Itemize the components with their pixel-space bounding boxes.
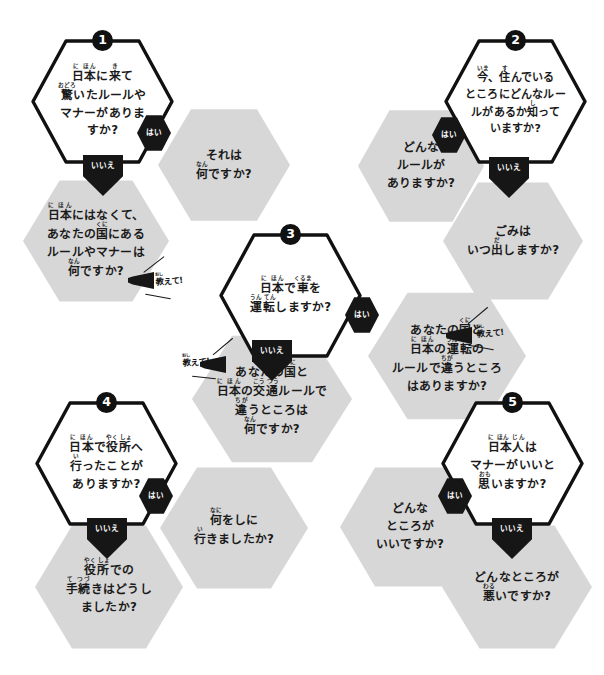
tell-me-annotation-3-yes: 教おしえて! (446, 310, 536, 356)
tell-me-annotation-3-no: 教おしえて! (186, 336, 272, 382)
speed-line (145, 294, 171, 300)
speed-line (468, 307, 489, 325)
connector-3-yes-label: はい (354, 311, 371, 319)
speed-line (468, 345, 494, 351)
connector-1-no-label: いいえ (91, 162, 116, 170)
connector-2-no-label: いいえ (497, 164, 522, 172)
tell-me-label-3-no: 教おしえて! (181, 351, 210, 369)
number-badge-4-label: 4 (102, 396, 111, 409)
question-hex-2: 今いま、住すんでいる ところにどんなルー ルがあるか知しって いますか? (443, 38, 588, 165)
answer-text-2-no: ごみはいつ出だしますか? (467, 223, 559, 260)
answer-text-4-yes: 何なにをしに 行いきましたか? (194, 507, 274, 549)
number-badge-4: 4 (96, 392, 117, 413)
connector-2-yes-label: はい (441, 131, 458, 139)
number-badge-5: 5 (502, 392, 523, 413)
connector-5-no-label: いいえ (500, 525, 525, 533)
number-badge-5-label: 5 (508, 396, 517, 409)
answer-text-5-no: どんなところが 悪わるいですか? (474, 569, 559, 606)
question-text-2: 今いま、住すんでいる ところにどんなルー ルがあるか知しって いますか? (443, 38, 588, 165)
speed-line (192, 376, 216, 380)
megaphone-icon-3-yes (446, 327, 472, 344)
number-badge-3: 3 (280, 224, 301, 245)
answer-box-4-yes: 何なにをしに 行いきましたか? (160, 465, 308, 591)
answer-text-4-no: 役所やく しょでの 手続て つづきはどうし ましたか? (66, 557, 151, 617)
answer-text-1-yes: それは何なんですか? (196, 147, 252, 184)
worksheet-canvas: 日本に ほんにはなくて、 あなたの国くににある ルールやマナーは 何なんですか?… (0, 0, 604, 675)
tell-me-annotation-1: 教おしえて! (128, 258, 214, 304)
answer-text-5-yes: どんなところがいいですか? (376, 500, 444, 554)
tell-me-label-1: 教おしえて! (154, 270, 183, 288)
connector-5-yes-label: はい (447, 492, 464, 500)
number-badge-1: 1 (92, 30, 113, 51)
megaphone-icon-1 (128, 272, 154, 289)
connector-4-yes-label: はい (148, 492, 165, 500)
number-badge-2: 2 (505, 30, 526, 51)
answer-box-1-yes: それは何なんですか? (158, 107, 290, 223)
tell-me-label-3-yes: 教おしえて! (475, 322, 504, 340)
number-badge-3-label: 3 (286, 228, 295, 241)
number-badge-2-label: 2 (511, 34, 520, 47)
number-badge-1-label: 1 (98, 34, 107, 47)
connector-1-yes-label: はい (146, 129, 163, 137)
speed-line (213, 338, 234, 356)
speed-line (143, 256, 164, 273)
connector-4-no-label: いいえ (95, 525, 120, 533)
